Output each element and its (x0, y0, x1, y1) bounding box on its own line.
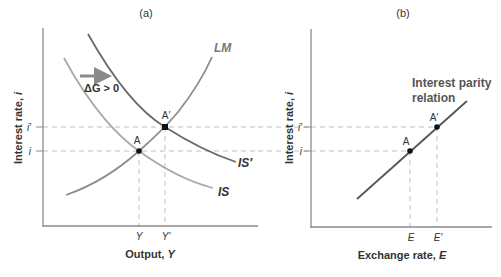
x-axis-title: Output, Y (125, 248, 176, 260)
lm-curve (66, 57, 212, 195)
panel-b: (b) Interest parity relation A A′ i′ i E… (258, 7, 492, 261)
point-a-prime-label-b: A′ (430, 112, 439, 123)
parity-label-line1: Interest parity (412, 76, 492, 90)
y-tick-i-b: i (300, 146, 303, 157)
parity-label-line2: relation (412, 91, 455, 105)
point-a (136, 148, 142, 154)
x-tick-y: Y (136, 231, 144, 242)
point-a-prime (162, 124, 168, 130)
delta-g-annotation: ΔG > 0 (84, 82, 119, 94)
y-axis-title-b: Interest rate, i (283, 91, 295, 164)
panel-a: (a) ΔG > 0 LM IS′ IS A A′ i′ i Y (12, 7, 258, 260)
point-a-label: A (134, 135, 141, 146)
y-tick-i-prime: i′ (27, 122, 32, 133)
is-prime-label: IS′ (238, 156, 253, 170)
is-label: IS (218, 185, 229, 199)
x-axis-title-b: Exchange rate, E (358, 249, 447, 261)
y-axis-title: Interest rate, i (12, 91, 24, 164)
point-a-b (407, 148, 413, 154)
panel-a-title: (a) (139, 7, 152, 19)
point-a-label-b: A (403, 136, 410, 147)
x-tick-e-prime: E′ (434, 232, 444, 243)
point-a-prime-b (434, 124, 440, 130)
panel-b-title: (b) (396, 7, 409, 19)
lm-label: LM (214, 41, 232, 55)
x-tick-e: E (408, 232, 415, 243)
x-tick-y-prime: Y′ (162, 231, 172, 242)
point-a-prime-label: A′ (162, 110, 171, 121)
is-lm-diagram: (a) ΔG > 0 LM IS′ IS A A′ i′ i Y (0, 0, 501, 277)
y-tick-i-prime-b: i′ (298, 122, 303, 133)
y-tick-i: i (29, 146, 32, 157)
